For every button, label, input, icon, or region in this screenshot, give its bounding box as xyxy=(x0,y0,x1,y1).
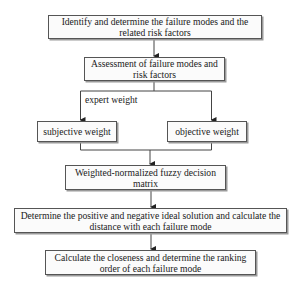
node-calculate-closeness: Calculate the closeness and determine th… xyxy=(45,250,256,275)
node-subjective-weight: subjective weight xyxy=(37,121,117,142)
node-weighted-matrix: Weighted-normalized fuzzy decision matri… xyxy=(65,165,226,190)
node-identify: Identify and determine the failure modes… xyxy=(48,15,262,39)
connector-lines xyxy=(0,0,308,292)
node-assessment: Assessment of failure modes and risk fac… xyxy=(84,57,225,81)
node-objective-weight: objective weight xyxy=(167,121,247,142)
edge-label-expert-weight: expert weight xyxy=(85,94,137,105)
node-determine-ideal-solution: Determine the positive and negative idea… xyxy=(14,208,287,233)
